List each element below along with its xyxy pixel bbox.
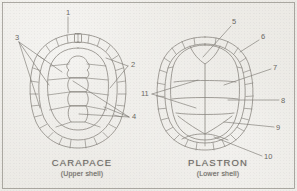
- callout-11: 11: [141, 89, 149, 98]
- carapace-leader-lines: [19, 17, 129, 117]
- callout-1: 1: [66, 8, 70, 17]
- carapace-caption: CARAPACE (Upper shell): [22, 157, 142, 177]
- callout-3: 3: [15, 33, 19, 42]
- carapace-caption-subtitle: (Upper shell): [22, 170, 142, 177]
- callout-9: 9: [276, 123, 280, 132]
- plastron-caption-title: PLASTRON: [158, 157, 278, 168]
- costal-scute-seams: [48, 64, 109, 127]
- plastron-drawing: [157, 37, 254, 150]
- marginal-scute-seams: [30, 34, 126, 148]
- figure-container: .ln{fill:none;stroke:#8b8882;stroke-widt…: [0, 0, 297, 191]
- callout-4: 4: [132, 112, 136, 121]
- plastron-leader-lines: [152, 26, 279, 156]
- callout-5: 5: [232, 17, 236, 26]
- callout-6: 6: [261, 32, 265, 41]
- carapace-caption-title: CARAPACE: [22, 157, 142, 168]
- plastron-caption: PLASTRON (Lower shell): [158, 157, 278, 177]
- callout-2: 2: [131, 60, 135, 69]
- plastron-caption-subtitle: (Lower shell): [158, 170, 278, 177]
- carapace-drawing: [30, 34, 126, 149]
- callout-8: 8: [281, 96, 285, 105]
- callout-7: 7: [273, 63, 277, 72]
